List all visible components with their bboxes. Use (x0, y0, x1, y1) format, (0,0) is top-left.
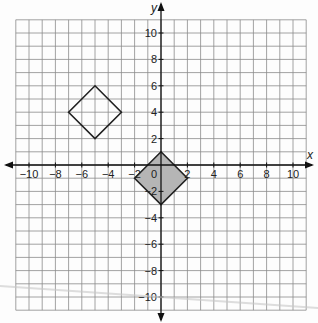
x-axis-right-arrow-icon (305, 162, 314, 169)
x-tick-label: 10 (287, 168, 299, 180)
x-axis-label: x (306, 148, 314, 162)
x-tick-label: −10 (20, 168, 39, 180)
y-tick-label: 2 (151, 133, 157, 145)
x-tick-label: 4 (211, 168, 217, 180)
x-tick-label: −2 (128, 168, 141, 180)
y-tick-label: −8 (144, 265, 157, 277)
x-tick-label: 6 (237, 168, 243, 180)
y-tick-label: −6 (144, 238, 157, 250)
y-tick-label: −2 (144, 185, 157, 197)
x-tick-label: −8 (49, 168, 62, 180)
x-tick-label: 2 (184, 168, 190, 180)
y-axis-up-arrow-icon (158, 2, 165, 11)
y-axis-label: y (150, 1, 158, 15)
origin-label: 0 (151, 168, 157, 180)
x-tick-label: −6 (76, 168, 89, 180)
y-tick-label: 6 (151, 80, 157, 92)
x-tick-label: 8 (264, 168, 270, 180)
y-axis-down-arrow-icon (158, 313, 165, 322)
y-tick-label: 4 (151, 106, 157, 118)
x-tick-label: −4 (102, 168, 115, 180)
shapes (69, 86, 188, 205)
coordinate-plane: −10−8−6−4−2246810108642−2−4−6−8−100xy (0, 0, 318, 323)
y-tick-label: 8 (151, 53, 157, 65)
y-tick-label: −4 (144, 212, 157, 224)
x-axis-left-arrow-icon (4, 162, 13, 169)
y-tick-label: 10 (145, 27, 157, 39)
